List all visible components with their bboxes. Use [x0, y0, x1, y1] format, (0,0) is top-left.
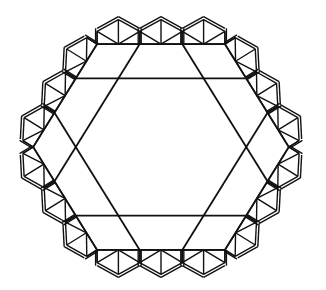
grid-line: [300, 155, 301, 178]
grid-line: [42, 82, 43, 105]
grid-line: [67, 233, 87, 245]
grid-line: [280, 178, 300, 189]
grid-line: [66, 49, 67, 72]
grid-line: [63, 47, 64, 70]
grid-line: [204, 250, 225, 263]
grid-line: [280, 105, 300, 116]
grid-line: [277, 83, 278, 106]
grid-line: [182, 113, 267, 250]
grid-line: [23, 153, 24, 176]
grid-line: [278, 106, 298, 117]
grid-line: [55, 44, 140, 181]
grid-line: [118, 31, 139, 44]
grid-line: [44, 83, 45, 106]
grid-line: [257, 83, 277, 95]
grid-line: [140, 266, 161, 278]
grid-line: [97, 17, 118, 29]
grid-line: [43, 212, 63, 223]
grid-line: [67, 38, 87, 49]
grid-line: [42, 189, 43, 212]
grid-line: [236, 49, 256, 61]
grid-line: [257, 198, 277, 210]
grid-line: [278, 164, 298, 176]
grid-line: [118, 250, 139, 263]
grid-line: [300, 116, 301, 139]
grid-line: [97, 250, 118, 263]
grid-line: [64, 36, 84, 47]
grid-line: [182, 44, 267, 181]
grid-line: [22, 105, 42, 116]
grid-line: [97, 263, 118, 275]
grid-line: [140, 20, 161, 32]
grid-line: [182, 263, 203, 275]
grid-line: [23, 118, 24, 141]
grid-line: [278, 118, 298, 130]
grid-line: [277, 188, 278, 211]
grid-line: [298, 118, 299, 141]
grid-line: [182, 17, 203, 29]
grid-line: [204, 263, 225, 275]
grid-line: [204, 17, 225, 29]
grid-line: [204, 266, 225, 278]
grid-line: [140, 17, 161, 29]
grid-line: [235, 245, 255, 256]
grid-line: [161, 20, 182, 32]
grid-line: [161, 31, 182, 44]
grid-line: [45, 83, 65, 95]
hexagonal-tiling-figure: [0, 0, 326, 290]
grid-line: [161, 263, 182, 275]
grid-line: [118, 263, 139, 275]
grid-line: [259, 70, 279, 81]
grid-line: [67, 49, 87, 61]
grid-line: [97, 266, 118, 278]
grid-line: [182, 20, 203, 32]
grid-line: [182, 31, 203, 44]
grid-line: [161, 266, 182, 278]
grid-line: [45, 198, 65, 210]
grid-line: [20, 116, 21, 139]
grid-line: [55, 113, 140, 250]
grid-line: [66, 222, 67, 245]
grid-line: [63, 224, 64, 247]
grid-line: [24, 176, 44, 187]
grid-line: [259, 212, 279, 223]
grid-line: [24, 118, 44, 130]
grid-line: [258, 224, 259, 247]
grid-line: [161, 17, 182, 29]
grid-line: [204, 31, 225, 44]
grid-line: [67, 245, 87, 256]
grid-line: [235, 38, 255, 49]
grid-line: [140, 250, 161, 263]
border-ring: [20, 17, 303, 278]
grid-line: [118, 17, 139, 29]
grid-line: [97, 31, 118, 44]
grid-line: [256, 211, 276, 222]
grid-line: [44, 188, 45, 211]
grid-line: [258, 47, 259, 70]
grid-line: [238, 247, 258, 258]
grid-line: [256, 72, 276, 83]
grid-line: [182, 250, 203, 263]
grid-line: [238, 36, 258, 47]
grid-line: [236, 233, 256, 245]
grid-line: [118, 20, 139, 32]
grid-line: [182, 266, 203, 278]
grid-line: [20, 140, 33, 148]
grid-line: [255, 222, 256, 245]
grid-line: [43, 70, 63, 81]
grid-line: [255, 49, 256, 72]
grid-line: [118, 266, 139, 278]
grid-line: [140, 263, 161, 275]
grid-line: [298, 153, 299, 176]
grid-line: [279, 82, 280, 105]
grid-line: [22, 178, 42, 189]
grid-line: [278, 176, 298, 187]
grid-line: [161, 250, 182, 263]
grid-line: [24, 106, 44, 117]
grid-line: [279, 189, 280, 212]
grid-line: [204, 20, 225, 32]
diagram-canvas: [0, 0, 326, 290]
grid-line: [45, 72, 65, 83]
grid-line: [45, 211, 65, 222]
grid-line: [97, 20, 118, 32]
